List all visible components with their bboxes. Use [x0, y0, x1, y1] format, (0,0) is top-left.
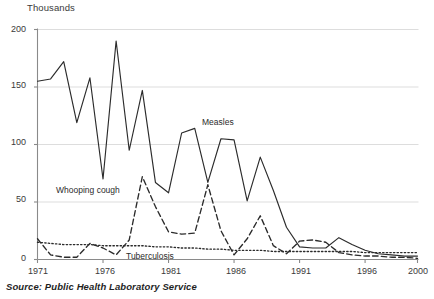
- series-label-tuberculosis: Tuberculosis: [126, 251, 174, 261]
- series-line-measles: [38, 41, 418, 256]
- plot-area: [0, 0, 434, 299]
- series-label-measles: Measles: [202, 117, 234, 127]
- chart-figure: Thousands 200 150 100 50 0 1971 1976 198…: [0, 0, 434, 299]
- source-note: Source: Public Health Laboratory Service: [6, 281, 197, 292]
- series-label-whooping-cough: Whooping cough: [56, 185, 120, 195]
